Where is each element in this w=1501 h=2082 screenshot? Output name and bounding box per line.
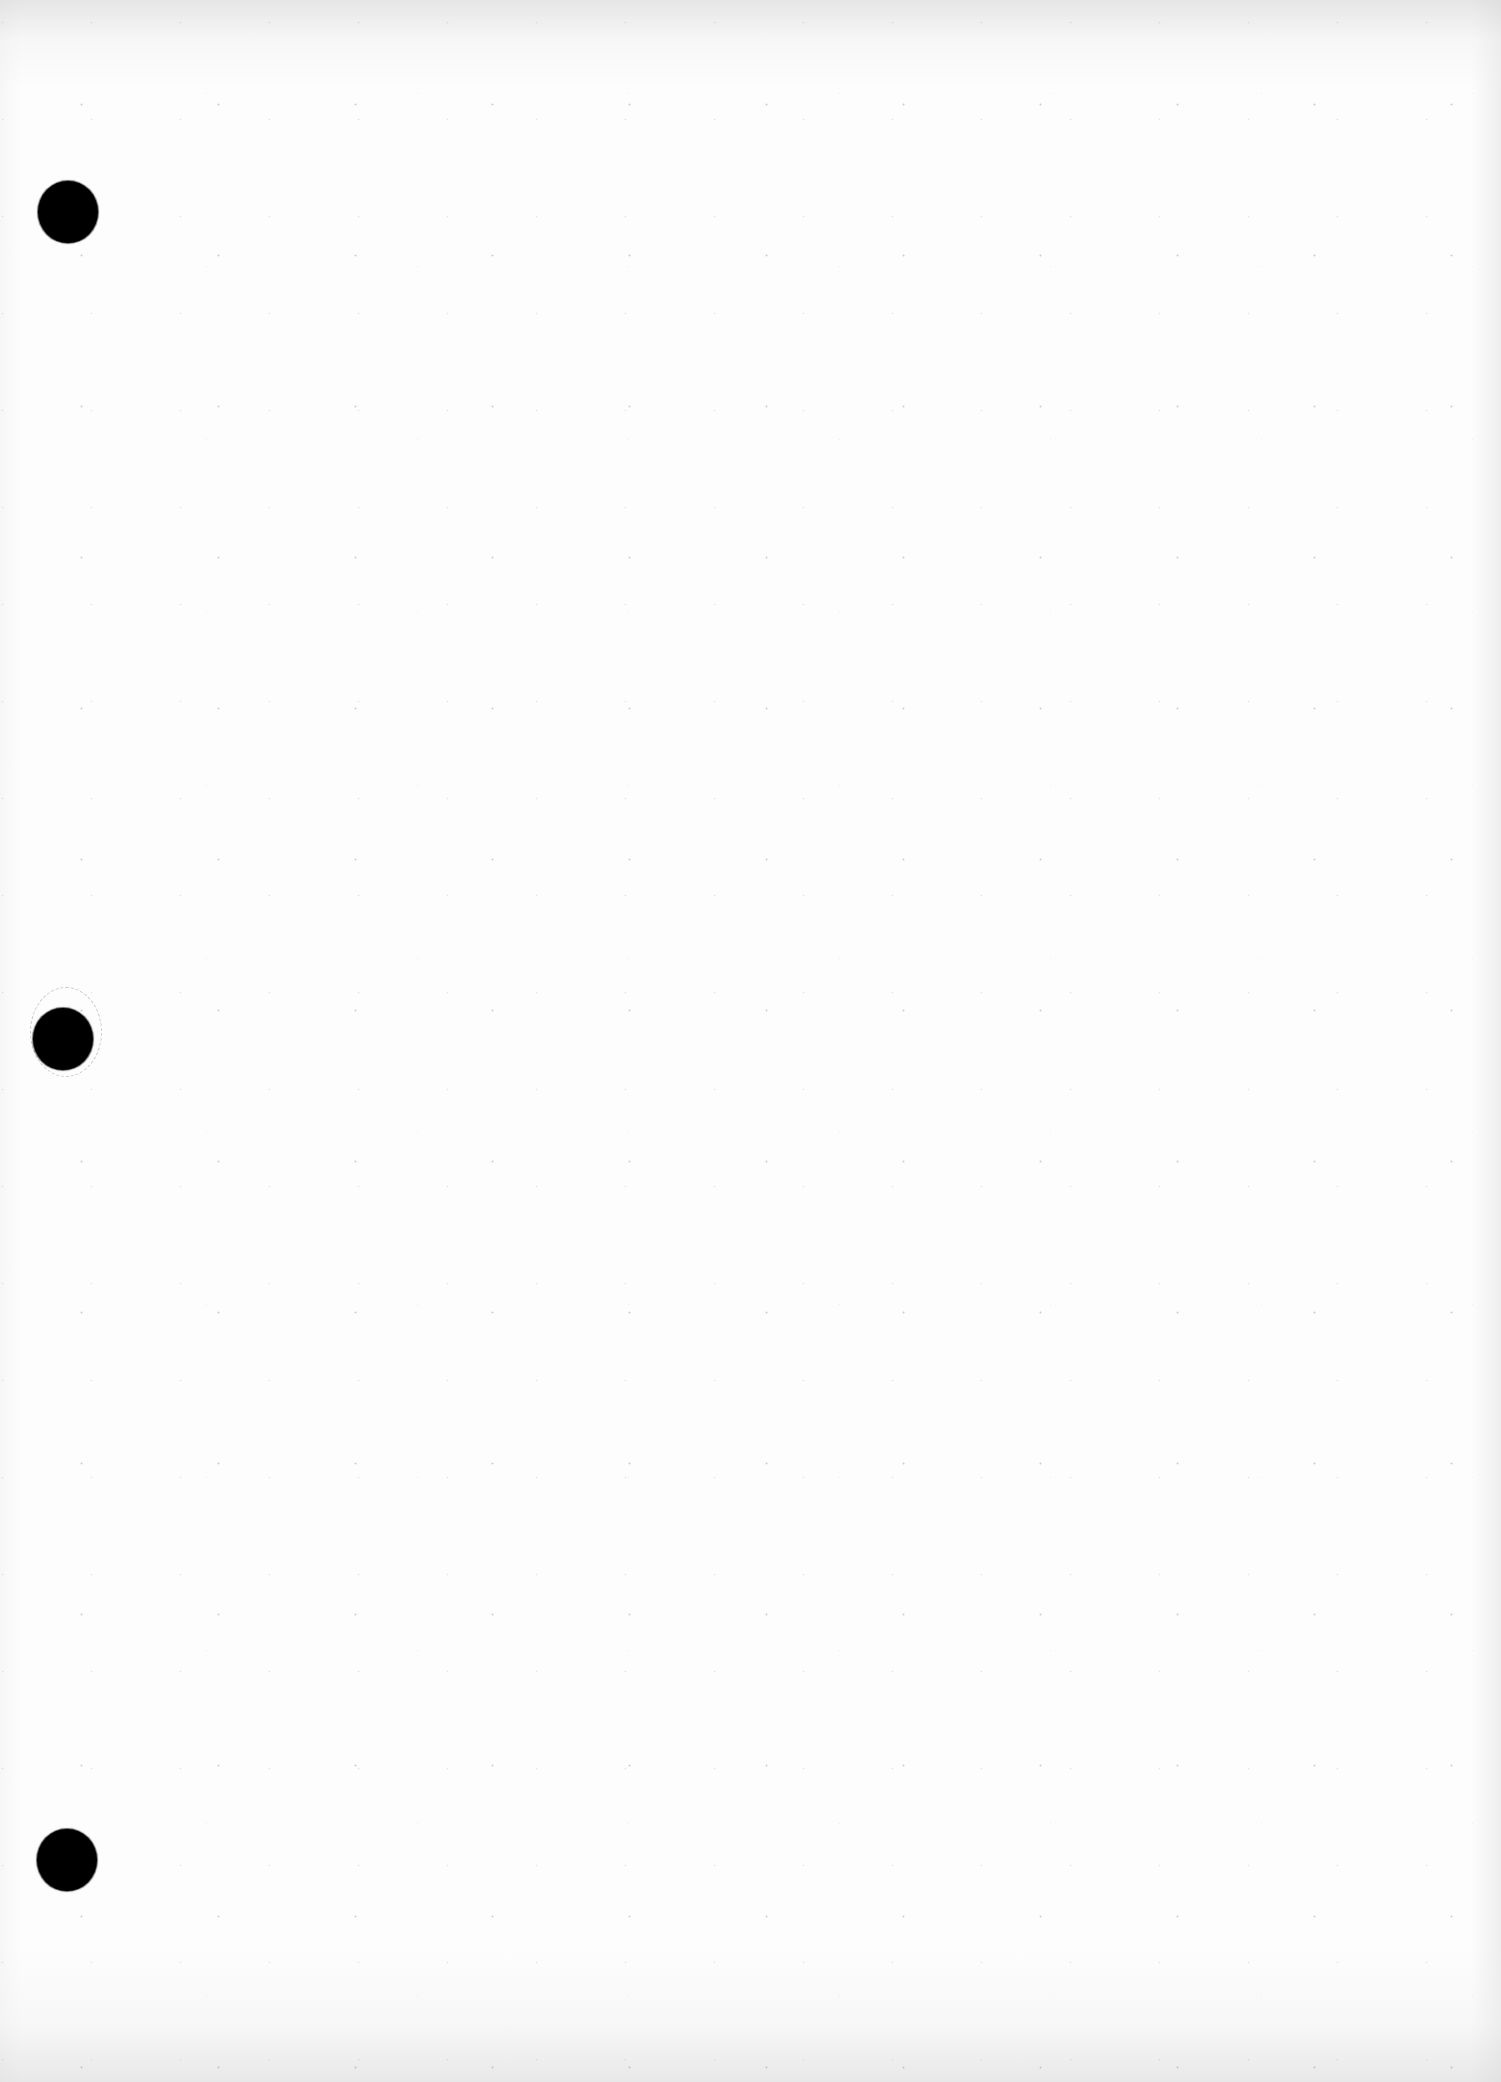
punch-hole-top — [38, 181, 98, 243]
punch-hole-middle — [33, 1008, 93, 1070]
punch-hole-bottom — [37, 1829, 97, 1891]
blank-document-page — [0, 0, 1501, 2082]
scan-noise — [0, 0, 1501, 2082]
